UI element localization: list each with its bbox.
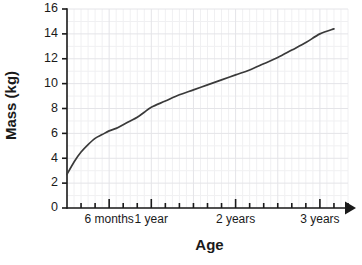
x-axis-tick-labels: 6 months1 year2 years3 years: [84, 212, 339, 226]
y-tick-label: 10: [44, 76, 58, 90]
y-axis: 0246810121416: [44, 1, 67, 214]
y-tick-label: 4: [51, 151, 58, 165]
y-tick-label: 6: [51, 126, 58, 140]
x-tick-label: 3 years: [300, 212, 339, 226]
x-tick-label: 2 years: [216, 212, 255, 226]
y-tick-label: 14: [44, 26, 58, 40]
y-tick-label: 16: [44, 1, 58, 15]
x-tick-label: 1 year: [135, 212, 168, 226]
y-tick-label: 2: [51, 175, 58, 189]
y-tick-label: 0: [51, 200, 58, 214]
y-axis-tick-labels: 0246810121416: [44, 1, 58, 214]
y-axis-title: Mass (kg): [0, 0, 22, 210]
growth-chart: 0246810121416 6 months1 year2 years3 yea…: [0, 0, 362, 265]
y-axis-title-text: Mass (kg): [3, 70, 20, 139]
chart-canvas: 0246810121416 6 months1 year2 years3 yea…: [0, 0, 362, 265]
x-axis-title: Age: [67, 236, 352, 253]
y-tick-label: 8: [51, 101, 58, 115]
y-tick-label: 12: [44, 51, 58, 65]
x-tick-label: 6 months: [84, 212, 133, 226]
x-axis-arrow-icon: [345, 202, 356, 215]
